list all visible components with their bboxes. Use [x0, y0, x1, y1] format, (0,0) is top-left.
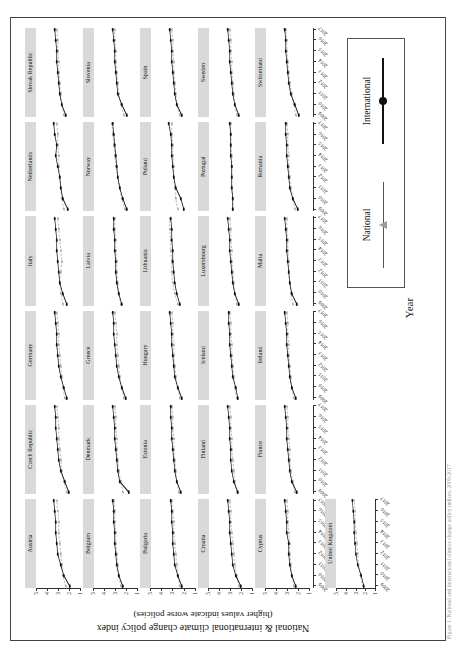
y-tick-label: 2: [181, 592, 187, 595]
panel-plot: [94, 122, 139, 211]
x-tick-label: 2010: [317, 289, 329, 301]
x-tick-label: 2012: [317, 173, 329, 185]
panel-netherlands: Netherlands: [25, 122, 81, 211]
panel-austria: Austria: [25, 499, 81, 588]
panel-title-norway: Norway: [83, 122, 94, 211]
panel-title-czech-republic: Czech Republic: [25, 405, 36, 494]
panel-romania: Romania: [255, 122, 311, 211]
panel-title-romania: Romania: [255, 122, 266, 211]
panel-title-iceland: Iceland: [198, 311, 209, 400]
panel-title-greece: Greece: [83, 311, 94, 400]
panel-title-denmark: Denmark: [83, 405, 94, 494]
panel-cyprus: Cyprus: [255, 499, 311, 588]
x-tick-label: 2010: [317, 383, 329, 395]
y-tick-label: 5: [33, 592, 39, 595]
y-tick: [365, 588, 366, 591]
y-tick: [36, 588, 37, 591]
x-tick: [313, 82, 316, 83]
panel-plot: [266, 28, 311, 117]
x-tick-label: 2014: [317, 58, 329, 70]
panel-czech-republic: Czech Republic: [25, 405, 81, 494]
panel-title-switzerland: Switzerland: [255, 28, 266, 117]
x-tick-label: 2016: [317, 36, 329, 48]
x-tick: [313, 448, 316, 449]
x-axis-column-3: 200920102011201220132014201520162017: [313, 311, 359, 400]
panel-norway: Norway: [83, 122, 139, 211]
x-tick: [313, 553, 316, 554]
panel-title-austria: Austria: [25, 499, 36, 588]
x-tick-label: 2014: [317, 152, 329, 164]
rotated-figure: National & international climate change …: [0, 0, 461, 653]
x-tick: [313, 343, 316, 344]
x-tick: [313, 397, 316, 398]
panel-title-portugal: Portugal: [198, 122, 209, 211]
y-axis-row-2: 12345: [93, 588, 137, 599]
panel-france: France: [255, 405, 311, 494]
x-axis-column-2: 200920102011201220132014201520162017: [313, 405, 359, 494]
x-tick-label: 2012: [379, 550, 391, 562]
y-tick: [219, 588, 220, 591]
panel-latvia: Latvia: [83, 216, 139, 305]
rotation-wrapper: National & international climate change …: [0, 0, 461, 653]
y-tick-label: 3: [169, 592, 175, 595]
panel-title-estonia: Estonia: [140, 405, 151, 494]
x-tick-label: 2010: [379, 571, 391, 583]
y-tick: [208, 588, 209, 591]
x-tick: [313, 239, 316, 240]
panel-luxembourg: Luxembourg: [198, 216, 254, 305]
y-tick-label: 2: [295, 592, 301, 595]
x-tick-label: 2015: [317, 47, 329, 59]
panel-plot: [209, 216, 254, 305]
x-tick: [313, 354, 316, 355]
x-tick-label: 2016: [379, 507, 391, 519]
panel-title-latvia: Latvia: [83, 216, 94, 305]
panel-title-slovak-republic: Slovak Republic: [25, 28, 36, 117]
panel-plot: [266, 216, 311, 305]
y-axis-row-1: 12345: [36, 588, 80, 599]
x-tick: [313, 176, 316, 177]
y-tick-label: 5: [205, 592, 211, 595]
x-tick: [375, 553, 378, 554]
panel-plot: [36, 122, 81, 211]
y-tick-label: 5: [262, 592, 268, 595]
x-tick-label: 2014: [317, 434, 329, 446]
figure-frame: National & international climate change …: [10, 17, 446, 641]
panel-plot: [94, 28, 139, 117]
y-tick: [93, 588, 94, 591]
panel-plot: [209, 311, 254, 400]
panel-bulgaria: Bulgaria: [140, 499, 196, 588]
x-tick-label: 2011: [317, 184, 328, 195]
x-tick: [313, 438, 316, 439]
figure-page: National & international climate change …: [0, 0, 461, 653]
x-tick-label: 2015: [317, 235, 329, 247]
x-tick: [313, 72, 316, 73]
panel-croatia: Croatia: [198, 499, 254, 588]
y-tick-label: 4: [343, 592, 349, 595]
y-tick-label: 4: [273, 592, 279, 595]
panel-title-france: France: [255, 405, 266, 494]
panel-plot: [266, 122, 311, 211]
panel-plot: [94, 405, 139, 494]
panel-plot: [266, 311, 311, 400]
panel-belgium: Belgium: [83, 499, 139, 588]
x-tick-label: 2014: [317, 246, 329, 258]
x-tick-label: 2012: [317, 267, 329, 279]
panel-title-belgium: Belgium: [83, 499, 94, 588]
x-tick: [313, 365, 316, 366]
x-tick: [313, 249, 316, 250]
y-tick: [137, 588, 138, 591]
y-tick-label: 2: [66, 592, 72, 595]
panel-plot: [94, 216, 139, 305]
figure-caption: Figure 1. National and international cli…: [446, 29, 452, 639]
y-axis-title-line1: National & international climate change …: [25, 622, 381, 635]
panel-portugal: Portugal: [198, 122, 254, 211]
panel-plot: [151, 405, 196, 494]
x-tick: [313, 50, 316, 51]
x-tick-label: 2015: [317, 329, 329, 341]
panel-plot: [36, 499, 81, 588]
panel-title-finland: Finland: [198, 405, 209, 494]
y-tick-label: 1: [306, 592, 312, 595]
panel-poland: Poland: [140, 122, 196, 211]
panel-plot: [209, 499, 254, 588]
x-tick-label: 2015: [317, 141, 329, 153]
